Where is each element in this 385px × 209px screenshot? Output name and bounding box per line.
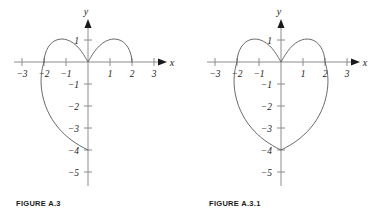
y-tick-label: −2	[261, 102, 272, 112]
y-tick-label: −3	[68, 124, 79, 134]
figure-caption-left: FIGURE A.3	[0, 198, 208, 209]
x-tick-labels: −3 −2 −1 1 2 3	[16, 69, 156, 79]
x-axis-arrow-icon	[351, 59, 360, 66]
x-tick-label: −2	[231, 69, 242, 79]
y-tick-label: −5	[261, 168, 272, 178]
figure-sheet: −3 −2 −1 1 2 3 1 −1 −2 −3 −4 −5 x y	[0, 0, 385, 209]
x-tick-labels: −3 −2 −1 1 2 3	[209, 69, 349, 79]
x-tick-label: −1	[253, 69, 264, 79]
x-tick-label: −3	[209, 69, 220, 79]
y-axis-arrow-icon	[278, 19, 285, 28]
x-axis-label: x	[169, 57, 175, 68]
y-tick-label: −4	[68, 146, 79, 156]
figure-panel-left: −3 −2 −1 1 2 3 1 −1 −2 −3 −4 −5 x y	[0, 0, 192, 209]
figure-caption-right: FIGURE A.3.1	[193, 198, 385, 209]
plot-area-right: −3 −2 −1 1 2 3 1 −1 −2 −3 −4 −5 x y	[193, 0, 385, 192]
plot-svg-right: −3 −2 −1 1 2 3 1 −1 −2 −3 −4 −5 x y	[193, 0, 385, 192]
plot-area-left: −3 −2 −1 1 2 3 1 −1 −2 −3 −4 −5 x y	[0, 0, 192, 192]
x-tick-label: 2	[130, 69, 135, 79]
x-tick-label: 3	[151, 69, 157, 79]
y-tick-label: −1	[261, 80, 272, 90]
y-tick-labels: 1 −1 −2 −3 −4 −5	[261, 36, 272, 178]
x-tick-label: 1	[301, 69, 306, 79]
y-axis-label: y	[276, 6, 282, 17]
x-axis-label: x	[362, 57, 368, 68]
x-tick-label: 3	[344, 69, 350, 79]
y-tick-label: −3	[261, 124, 272, 134]
plot-svg-left: −3 −2 −1 1 2 3 1 −1 −2 −3 −4 −5 x y	[0, 0, 192, 192]
x-axis-arrow-icon	[158, 59, 167, 66]
y-axis-arrow-icon	[85, 19, 92, 28]
y-tick-labels: 1 −1 −2 −3 −4 −5	[68, 36, 79, 178]
y-tick-label: −2	[68, 102, 79, 112]
y-tick-label: −5	[68, 168, 79, 178]
figure-panel-right: −3 −2 −1 1 2 3 1 −1 −2 −3 −4 −5 x y	[193, 0, 385, 209]
y-axis-label: y	[83, 6, 89, 17]
x-tick-label: −3	[16, 69, 27, 79]
x-tick-label: −2	[38, 69, 49, 79]
x-tick-label: 1	[108, 69, 113, 79]
x-tick-label: −1	[60, 69, 71, 79]
y-tick-label: −1	[68, 80, 79, 90]
y-tick-label: −4	[261, 146, 272, 156]
